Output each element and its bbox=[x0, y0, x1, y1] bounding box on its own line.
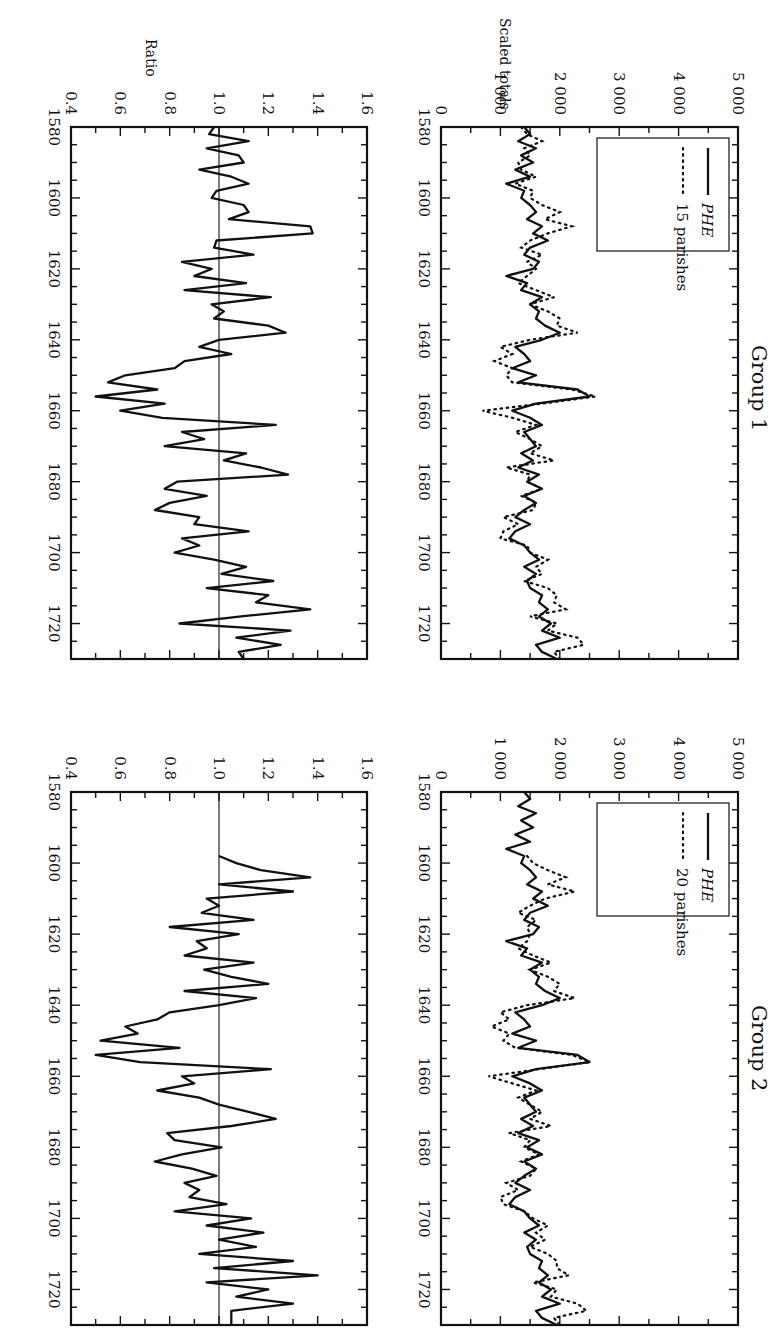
year-tick-label: 1580 bbox=[415, 773, 433, 811]
value-tick-label: 5 000 bbox=[729, 72, 747, 115]
year-tick-label: 1680 bbox=[415, 463, 433, 501]
year-tick-label: 1600 bbox=[45, 179, 63, 217]
panel-group-1-ratio: 158016001620164016601680170017200.40.60.… bbox=[45, 91, 376, 659]
legend: PHE15 parishes bbox=[597, 138, 729, 291]
year-tick-label: 1700 bbox=[45, 534, 63, 572]
series-line-phe bbox=[506, 792, 589, 1325]
series-line-ratio bbox=[96, 856, 318, 1325]
year-tick-label: 1660 bbox=[415, 1057, 433, 1095]
year-tick-label: 1620 bbox=[45, 250, 63, 288]
value-tick-label: 0.6 bbox=[111, 756, 129, 780]
legend-label: 15 parishes bbox=[673, 203, 691, 291]
legend-label: PHE bbox=[698, 867, 716, 902]
legend-label: PHE bbox=[698, 202, 716, 237]
value-tick-label: 2 000 bbox=[551, 737, 569, 780]
value-tick-label: 4 000 bbox=[670, 72, 688, 115]
year-tick-label: 1680 bbox=[415, 1128, 433, 1166]
panel-group-2-scaled-totals: 1580160016201640166016801700172001 0002 … bbox=[415, 737, 747, 1325]
group-1-title: Group 1 bbox=[747, 345, 771, 431]
value-tick-label: 0.4 bbox=[62, 91, 80, 115]
legend-label: 20 parishes bbox=[673, 868, 691, 956]
year-tick-label: 1600 bbox=[415, 179, 433, 217]
year-tick-label: 1600 bbox=[45, 844, 63, 882]
series-line-ratio bbox=[96, 127, 313, 659]
year-tick-label: 1700 bbox=[415, 534, 433, 572]
value-tick-label: 1.0 bbox=[210, 91, 228, 115]
value-tick-label: 3 000 bbox=[610, 72, 628, 115]
year-tick-label: 1720 bbox=[415, 1270, 433, 1308]
year-tick-label: 1680 bbox=[45, 1128, 63, 1166]
year-tick-label: 1720 bbox=[45, 1270, 63, 1308]
year-tick-label: 1700 bbox=[415, 1199, 433, 1237]
value-tick-label: 0 bbox=[432, 770, 450, 780]
year-tick-label: 1680 bbox=[45, 463, 63, 501]
figure-canvas: 1580160016201640166016801700172001 0002 … bbox=[0, 0, 784, 1343]
value-tick-label: 1.4 bbox=[309, 756, 327, 780]
year-tick-label: 1720 bbox=[45, 604, 63, 642]
year-tick-label: 1700 bbox=[45, 1199, 63, 1237]
panel-group-2-ratio: 158016001620164016601680170017200.40.60.… bbox=[45, 756, 376, 1325]
year-tick-label: 1600 bbox=[415, 844, 433, 882]
year-tick-label: 1620 bbox=[415, 915, 433, 953]
value-tick-label: 3 000 bbox=[610, 737, 628, 780]
value-tick-label: 0 bbox=[432, 105, 450, 115]
value-tick-label: 1.2 bbox=[259, 756, 277, 780]
value-tick-label: 1.6 bbox=[358, 91, 376, 115]
year-tick-label: 1580 bbox=[415, 108, 433, 146]
year-tick-label: 1640 bbox=[45, 986, 63, 1024]
year-tick-label: 1640 bbox=[415, 986, 433, 1024]
value-tick-label: 4 000 bbox=[670, 737, 688, 780]
year-tick-label: 1660 bbox=[45, 1057, 63, 1095]
year-tick-label: 1660 bbox=[45, 392, 63, 430]
value-tick-label: 1.6 bbox=[358, 756, 376, 780]
year-tick-label: 1640 bbox=[45, 321, 63, 359]
value-tick-label: 0.8 bbox=[161, 91, 179, 115]
year-tick-label: 1620 bbox=[45, 915, 63, 953]
year-tick-label: 1580 bbox=[45, 773, 63, 811]
scaled-totals-axis-title: Scaled totals bbox=[497, 18, 513, 110]
value-tick-label: 0.6 bbox=[111, 91, 129, 115]
value-tick-label: 0.8 bbox=[161, 756, 179, 780]
value-tick-label: 1.0 bbox=[210, 756, 228, 780]
group-2-title: Group 2 bbox=[747, 1005, 771, 1091]
value-tick-label: 2 000 bbox=[551, 72, 569, 115]
value-tick-label: 1.4 bbox=[309, 91, 327, 115]
year-tick-label: 1720 bbox=[415, 604, 433, 642]
value-tick-label: 5 000 bbox=[729, 737, 747, 780]
ratio-axis-title: Ratio bbox=[143, 39, 159, 77]
year-tick-label: 1660 bbox=[415, 392, 433, 430]
value-tick-label: 0.4 bbox=[62, 756, 80, 780]
value-tick-label: 1 000 bbox=[491, 737, 509, 780]
year-tick-label: 1620 bbox=[415, 250, 433, 288]
value-tick-label: 1.2 bbox=[259, 91, 277, 115]
year-tick-label: 1640 bbox=[415, 321, 433, 359]
panel-group-1-scaled-totals: 1580160016201640166016801700172001 0002 … bbox=[415, 72, 747, 659]
series-line-15-parishes bbox=[483, 127, 596, 659]
year-tick-label: 1580 bbox=[45, 108, 63, 146]
legend: PHE20 parishes bbox=[597, 803, 729, 956]
